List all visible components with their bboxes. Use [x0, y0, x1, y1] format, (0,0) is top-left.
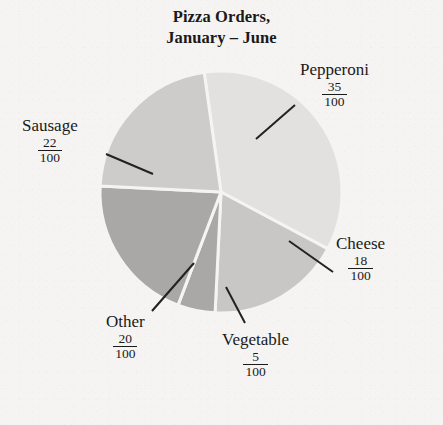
fraction-denominator: 100	[322, 95, 346, 109]
fraction-denominator: 100	[348, 269, 372, 283]
pie-slice-sausage	[100, 72, 221, 192]
slice-label-sausage-name: Sausage	[22, 116, 78, 135]
fraction-numerator: 20	[113, 332, 137, 347]
slice-label-other: Other 20 100	[106, 312, 145, 362]
slice-label-sausage: Sausage 22 100	[22, 116, 78, 166]
fraction-numerator: 35	[322, 80, 346, 95]
slice-label-other-fraction: 20 100	[113, 332, 137, 361]
fraction-denominator: 100	[243, 365, 267, 379]
slice-label-cheese-name: Cheese	[336, 234, 385, 253]
slice-label-pepperoni: Pepperoni 35 100	[300, 60, 369, 110]
chart-page: Pizza Orders, January – June Pepperoni 3…	[0, 0, 443, 425]
slice-label-vegetable-name: Vegetable	[222, 330, 289, 349]
fraction-denominator: 100	[113, 347, 137, 361]
slice-label-pepperoni-name: Pepperoni	[300, 60, 369, 79]
slice-label-vegetable-fraction: 5 100	[243, 350, 267, 379]
fraction-denominator: 100	[38, 151, 62, 165]
fraction-numerator: 18	[348, 254, 372, 269]
fraction-numerator: 5	[243, 350, 267, 365]
slice-label-cheese: Cheese 18 100	[336, 234, 385, 284]
slice-label-other-name: Other	[106, 312, 145, 331]
slice-label-vegetable: Vegetable 5 100	[222, 330, 289, 380]
slice-label-sausage-fraction: 22 100	[38, 136, 62, 165]
slice-label-pepperoni-fraction: 35 100	[322, 80, 346, 109]
fraction-numerator: 22	[38, 136, 62, 151]
slice-label-cheese-fraction: 18 100	[348, 254, 372, 283]
